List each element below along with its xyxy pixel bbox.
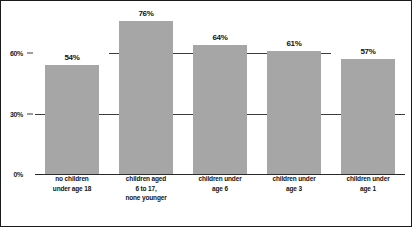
bar-value-label: 57% <box>331 47 405 56</box>
category-label: children underage 3 <box>257 174 331 193</box>
bar[interactable] <box>119 21 172 174</box>
bar[interactable] <box>193 45 246 174</box>
bar[interactable] <box>45 65 98 174</box>
category-label-line: age 6 <box>183 184 257 194</box>
category-label-line: age 1 <box>331 184 405 194</box>
bar-chart: 0%30%60% 54%76%64%61%57% no childrenunde… <box>0 0 412 227</box>
category-label: children underage 1 <box>331 174 405 193</box>
bar[interactable] <box>267 51 320 174</box>
category-label-line: no children <box>35 174 109 184</box>
bar-slot: 54% <box>35 13 109 174</box>
category-label: no childrenunder age 18 <box>35 174 109 193</box>
bar-value-label: 64% <box>183 33 257 42</box>
category-label-line: children aged <box>109 174 183 184</box>
bar-slot: 76% <box>109 13 183 174</box>
category-axis-labels: no childrenunder age 18children aged6 to… <box>35 174 405 212</box>
bar-slot: 57% <box>331 13 405 174</box>
category-label-line: children under <box>183 174 257 184</box>
bar-slot: 64% <box>183 13 257 174</box>
category-label: children underage 6 <box>183 174 257 193</box>
y-axis-tick-label: 60% <box>0 50 23 57</box>
bar-slot: 61% <box>257 13 331 174</box>
category-label-line: age 3 <box>257 184 331 194</box>
bar-value-label: 76% <box>109 9 183 18</box>
y-axis-tick-label: 0% <box>0 171 23 178</box>
bar[interactable] <box>341 59 394 174</box>
y-axis-tick-mark <box>27 113 33 114</box>
y-axis-tick-label: 30% <box>0 110 23 117</box>
category-label-line: none younger <box>109 193 183 203</box>
category-label: children aged6 to 17,none younger <box>109 174 183 203</box>
plot-area: 0%30%60% 54%76%64%61%57% <box>35 13 405 174</box>
category-label-line: under age 18 <box>35 184 109 194</box>
bar-series: 54%76%64%61%57% <box>35 13 405 174</box>
category-label-line: children under <box>257 174 331 184</box>
category-label-line: 6 to 17, <box>109 184 183 194</box>
y-axis-tick-mark <box>27 53 33 54</box>
category-label-line: children under <box>331 174 405 184</box>
bar-value-label: 61% <box>257 39 331 48</box>
bar-value-label: 54% <box>35 53 109 62</box>
